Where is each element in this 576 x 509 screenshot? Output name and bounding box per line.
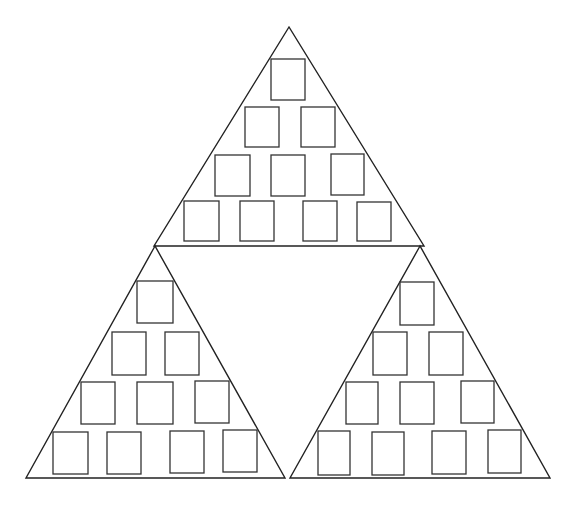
- rectangle-box: [432, 431, 466, 474]
- rectangle-box: [331, 154, 364, 195]
- rectangle-box: [373, 332, 407, 375]
- rectangle-box: [429, 332, 463, 375]
- rectangle-box: [215, 155, 250, 196]
- rectangle-box: [107, 432, 141, 474]
- rectangle-box: [137, 281, 173, 323]
- rectangle-box: [240, 201, 274, 241]
- rectangle-box: [165, 332, 199, 375]
- rectangle-box: [112, 332, 146, 375]
- rectangle-box: [400, 282, 434, 325]
- triangle-bottom-left: [26, 246, 285, 478]
- rectangle-box: [184, 201, 219, 241]
- rectangle-box: [271, 155, 305, 196]
- triangle-bottom-right: [290, 246, 550, 478]
- rectangle-box: [245, 107, 279, 147]
- sierpinski-diagram: [0, 0, 576, 509]
- rectangle-box: [223, 430, 257, 472]
- rectangle-box: [81, 382, 115, 424]
- rectangle-box: [170, 431, 204, 473]
- rectangle-box: [137, 382, 173, 424]
- rectangle-box: [400, 382, 434, 424]
- rectangle-box: [488, 430, 521, 473]
- rectangle-box: [357, 202, 391, 241]
- rectangle-box: [372, 432, 404, 475]
- rectangle-box: [303, 201, 337, 241]
- rectangle-box: [301, 107, 335, 147]
- rectangle-box: [271, 59, 305, 100]
- rectangle-box: [53, 432, 88, 474]
- triangle-top: [154, 27, 424, 246]
- rectangle-box: [346, 382, 378, 424]
- rectangle-box: [318, 431, 350, 475]
- rectangle-box: [461, 381, 494, 423]
- rectangle-box: [195, 381, 229, 423]
